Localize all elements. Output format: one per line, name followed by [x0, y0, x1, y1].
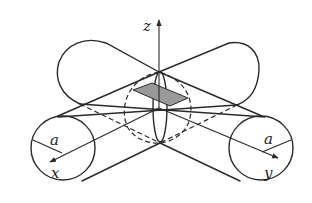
z-axis-label: z [142, 17, 151, 35]
intersection-ellipse [153, 72, 167, 142]
shaded-cross-section [133, 83, 188, 106]
hidden-edge-left [80, 104, 160, 143]
y-axis-label: y [263, 164, 273, 182]
x-axis-label: x [51, 164, 60, 182]
y-cylinder-end-circle [229, 116, 293, 180]
x-cylinder-top-edge [58, 105, 237, 117]
x-cylinder-end-circle [31, 116, 95, 180]
y-cylinder-bottom-edge [160, 143, 240, 181]
radius-label-left: a [50, 131, 59, 149]
x-cylinder-bottom-edge [82, 143, 160, 181]
radius-label-right: a [264, 130, 273, 148]
intersecting-cylinders-diagram: z x y a a [0, 0, 312, 203]
